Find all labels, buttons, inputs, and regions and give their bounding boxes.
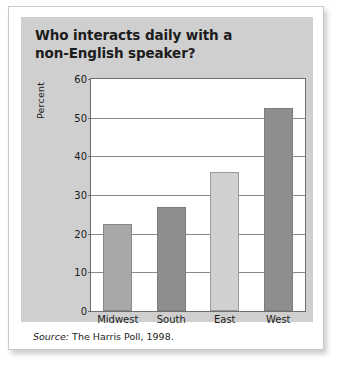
bar-east: East: [210, 172, 239, 311]
y-tick-label: 60: [74, 74, 87, 85]
y-tick-label: 20: [74, 228, 87, 239]
y-tick-mark: [88, 272, 91, 273]
x-tick-label: Midwest: [97, 314, 138, 325]
y-tick-mark: [88, 79, 91, 80]
y-tick-label: 30: [74, 190, 87, 201]
figure-card: Who interacts daily with anon-English sp…: [8, 6, 324, 350]
source-text: The Harris Poll, 1998.: [72, 331, 174, 342]
y-axis-label: Percent: [35, 61, 46, 141]
x-tick-label: West: [266, 314, 291, 325]
y-tick-label: 50: [74, 112, 87, 123]
bar-south: South: [157, 207, 186, 311]
x-tick-label: East: [214, 314, 236, 325]
y-tick-label: 40: [74, 151, 87, 162]
y-tick-label: 10: [74, 267, 87, 278]
y-tick-mark: [88, 234, 91, 235]
plot-area: 0102030405060 MidwestSouthEastWest: [90, 78, 306, 312]
source-note: Source: The Harris Poll, 1998.: [33, 331, 174, 342]
y-tick-mark: [88, 195, 91, 196]
x-tick-label: South: [157, 314, 186, 325]
source-label: Source:: [33, 331, 69, 342]
y-tick-mark: [88, 156, 91, 157]
bar-midwest: Midwest: [103, 224, 132, 311]
bar-west: West: [264, 108, 293, 311]
y-tick-label: 0: [81, 306, 87, 317]
chart-title: Who interacts daily with anon-English sp…: [35, 27, 297, 62]
y-tick-mark: [88, 311, 91, 312]
y-tick-mark: [88, 118, 91, 119]
chart-panel: Who interacts daily with anon-English sp…: [21, 17, 313, 322]
